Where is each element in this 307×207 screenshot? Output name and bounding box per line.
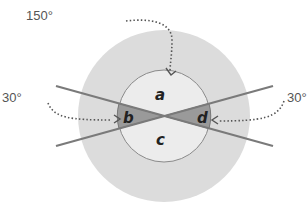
region-a-label: a: [155, 86, 165, 104]
angle-label-right: 30°: [287, 90, 307, 105]
region-b-label: b: [123, 109, 134, 127]
region-d-label: d: [197, 109, 208, 127]
diagram-canvas: [0, 0, 307, 207]
angle-label-left: 30°: [2, 90, 22, 105]
angle-label-top: 150°: [26, 8, 53, 23]
region-c-label: c: [156, 131, 165, 149]
